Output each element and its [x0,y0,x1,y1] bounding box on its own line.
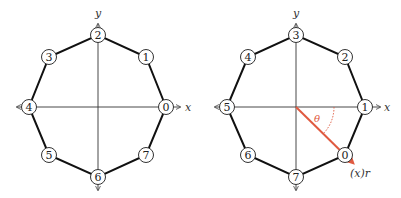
node-6: 6 [241,148,256,163]
node-3: 3 [42,50,57,65]
svg-text:3: 3 [46,51,53,64]
octagon-right: y x θ 0 1 2 3 4 5 6 7 (x)r [215,7,391,190]
vector-label: (x)r [350,167,371,180]
node-1: 1 [358,100,373,115]
node-0: 0 [159,100,174,115]
node-2: 2 [338,50,353,65]
node-0: 0 [338,148,353,163]
diagram-canvas: y x 0 1 2 3 4 5 6 7 y x θ 0 1 2 3 4 5 6 … [0,0,401,198]
svg-text:4: 4 [26,101,33,114]
svg-text:0: 0 [342,149,349,162]
x-axis-label: x [384,101,391,114]
node-2: 2 [91,28,106,43]
svg-text:7: 7 [143,149,150,162]
node-7: 7 [139,148,154,163]
node-1: 1 [139,50,154,65]
octagon-left: y x 0 1 2 3 4 5 6 7 [17,7,192,190]
x-axis-label: x [185,101,192,114]
theta-label: θ [314,113,320,124]
node-4: 4 [241,50,256,65]
angle-arc [323,107,334,134]
node-3: 3 [289,28,304,43]
svg-text:7: 7 [293,171,300,184]
node-7: 7 [289,170,304,185]
svg-text:6: 6 [95,171,102,184]
node-5: 5 [42,148,57,163]
svg-text:1: 1 [143,51,150,64]
y-axis-label: y [94,7,102,20]
svg-text:5: 5 [46,149,53,162]
svg-text:2: 2 [342,51,349,64]
svg-text:3: 3 [293,29,300,42]
svg-text:1: 1 [362,101,369,114]
svg-text:2: 2 [95,29,102,42]
svg-text:0: 0 [163,101,170,114]
node-4: 4 [22,100,37,115]
node-5: 5 [220,100,235,115]
svg-text:6: 6 [245,149,252,162]
svg-text:5: 5 [224,101,231,114]
node-6: 6 [91,170,106,185]
svg-text:4: 4 [245,51,252,64]
y-axis-label: y [292,7,300,20]
